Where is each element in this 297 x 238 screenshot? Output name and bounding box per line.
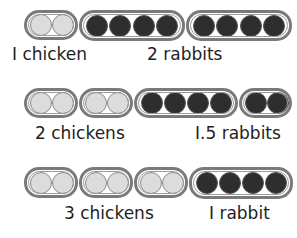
chicken-group — [24, 88, 78, 118]
chicken-group — [79, 167, 133, 198]
rabbit-leg-icon — [193, 15, 215, 37]
rabbit-group — [134, 88, 238, 118]
chicken-leg-icon — [162, 172, 184, 194]
rabbit-group — [186, 10, 292, 41]
chicken-leg-icon — [52, 14, 74, 36]
chicken-leg-icon — [52, 92, 74, 114]
chicken-leg-icon — [52, 172, 74, 194]
rabbit-leg-icon — [141, 92, 163, 114]
rabbit-leg-icon — [187, 92, 209, 114]
rabbit-leg-icon — [263, 15, 285, 37]
chicken-leg-icon — [140, 172, 162, 194]
rabbit-leg-icon — [216, 15, 238, 37]
rabbit-leg-icon — [265, 172, 287, 194]
rabbit-leg-icon — [210, 92, 232, 114]
rabbit-leg-icon — [156, 15, 178, 37]
rabbit-leg-icon — [245, 92, 267, 114]
rabbit-leg-icon — [219, 172, 241, 194]
chicken-leg-icon — [85, 172, 107, 194]
chicken-label: I chicken — [12, 44, 87, 64]
chicken-leg-icon — [30, 14, 52, 36]
rabbit-group — [79, 10, 185, 41]
chicken-leg-icon — [85, 92, 107, 114]
chicken-label: 3 chickens — [64, 203, 154, 223]
rabbit-leg-icon — [242, 172, 264, 194]
rabbit-label: I rabbit — [209, 203, 270, 223]
rabbit-leg-icon — [86, 15, 108, 37]
chicken-group — [24, 10, 78, 40]
rabbit-leg-icon — [164, 92, 186, 114]
chicken-leg-icon — [30, 172, 52, 194]
chicken-group — [79, 88, 133, 118]
rabbit-label: 2 rabbits — [147, 44, 222, 64]
chicken-group — [134, 167, 188, 198]
rabbit-leg-icon — [196, 172, 218, 194]
chicken-label: 2 chickens — [35, 123, 125, 143]
rabbit-leg-icon — [109, 15, 131, 37]
chicken-group — [24, 167, 78, 198]
rabbit-leg-icon — [133, 15, 155, 37]
chicken-leg-icon — [107, 172, 129, 194]
rabbit-half-group — [239, 88, 292, 118]
chicken-leg-icon — [107, 92, 129, 114]
rabbit-group — [189, 167, 293, 199]
rabbit-label: I.5 rabbits — [195, 123, 281, 143]
rabbit-leg-icon — [240, 15, 262, 37]
rabbit-leg-icon — [267, 92, 289, 114]
chicken-leg-icon — [30, 92, 52, 114]
